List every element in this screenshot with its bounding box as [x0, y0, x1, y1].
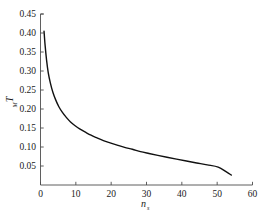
y-tick-label: 0.35: [19, 47, 36, 57]
y-tick-label: 0.20: [19, 104, 36, 114]
y-tick-label: 0.30: [19, 66, 36, 76]
chart-background: [0, 0, 265, 214]
x-tick-label: 10: [71, 189, 81, 199]
x-axis-title-text: n: [141, 198, 146, 209]
y-tick-label: 0.25: [19, 85, 36, 95]
x-tick-label: 60: [248, 189, 258, 199]
y-tick-label: 0.10: [19, 142, 36, 152]
chart-canvas: 0.050.100.150.200.250.300.350.400.45 010…: [0, 0, 265, 214]
y-tick-label: 0.15: [19, 123, 36, 133]
y-tick-label: 0.40: [19, 28, 36, 38]
x-tick-label: 20: [106, 189, 116, 199]
figure: 0.050.100.150.200.250.300.350.400.45 010…: [0, 0, 265, 214]
x-tick-label: 0: [38, 189, 43, 199]
y-axis-title-subscript: M: [11, 101, 18, 108]
x-tick-label: 40: [177, 189, 187, 199]
x-tick-label: 50: [212, 189, 222, 199]
x-tick-label: 30: [142, 189, 152, 199]
y-tick-label: 0.45: [19, 9, 36, 19]
y-tick-label: 0.05: [19, 161, 36, 171]
